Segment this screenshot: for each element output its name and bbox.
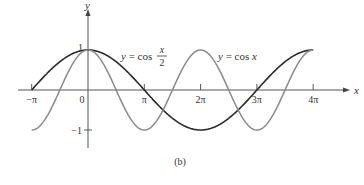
y-tick-label: 1 <box>78 42 83 53</box>
x-tick-label: π <box>142 94 147 105</box>
x-tick-label: 2π <box>196 94 206 105</box>
x-tick-label: −π <box>26 94 37 105</box>
figure-caption: (b) <box>174 156 186 168</box>
x-axis-arrow-icon <box>343 88 350 93</box>
x-tick-label: 3π <box>252 94 262 105</box>
x-axis-label: x <box>353 84 359 96</box>
labels: xy−π0π2π3π4π1−1y = cos x2y = cos x(b) <box>26 0 359 168</box>
svg-text:2: 2 <box>160 57 165 68</box>
axes <box>18 9 350 148</box>
y-tick-label: −1 <box>71 125 82 136</box>
y-axis-label: y <box>84 0 90 11</box>
label-cos-half-x: y = cos x2 <box>120 44 167 68</box>
chart: xy−π0π2π3π4π1−1y = cos x2y = cos x(b) <box>0 0 364 185</box>
x-tick-label: 4π <box>308 94 318 105</box>
x-tick-label: 0 <box>80 94 85 105</box>
svg-text:y = cos: y = cos <box>120 50 152 62</box>
label-cos-x: y = cos x <box>217 50 257 62</box>
svg-text:x: x <box>159 44 165 55</box>
